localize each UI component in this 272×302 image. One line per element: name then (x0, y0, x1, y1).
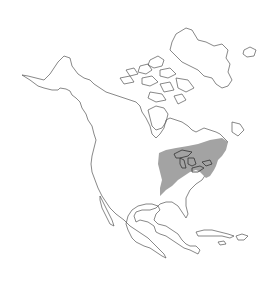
jamaica-outline (218, 241, 226, 245)
hudson-bay-outline (148, 106, 168, 130)
arctic-archipelago (120, 56, 194, 104)
north-america-map (0, 0, 272, 302)
cuba-outline (196, 230, 234, 238)
iceland-outline (243, 47, 256, 57)
hispaniola-outline (236, 234, 248, 240)
greenland-outline (170, 28, 232, 88)
baja-california-outline (100, 196, 114, 226)
newfoundland-outline (232, 122, 244, 136)
